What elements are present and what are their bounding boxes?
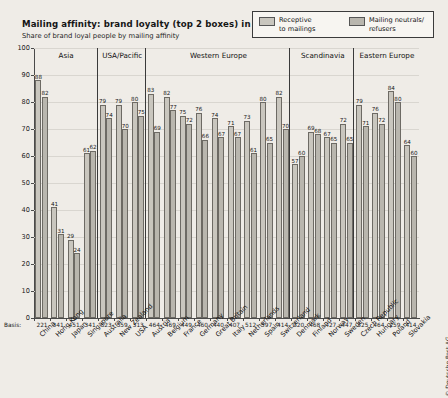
bar[interactable] [308, 132, 314, 318]
bar-group[interactable]: 7672 [372, 48, 385, 318]
bar[interactable] [363, 126, 369, 318]
bar[interactable] [299, 156, 305, 318]
bar[interactable] [100, 105, 106, 318]
x-axis-tick-mark [307, 318, 308, 321]
bar-value-label: 80 [259, 96, 266, 102]
bar-group[interactable]: 8065 [260, 48, 273, 318]
bar[interactable] [90, 151, 96, 318]
bar[interactable] [372, 113, 378, 318]
bar[interactable] [356, 105, 362, 318]
bar-group[interactable]: 8075 [132, 48, 145, 318]
bar-value-label: 64 [404, 139, 411, 145]
bar[interactable] [404, 145, 410, 318]
bar-value-label: 82 [41, 90, 48, 96]
bar-group[interactable]: 7467 [212, 48, 225, 318]
x-axis-tick-mark [243, 318, 244, 321]
bar[interactable] [395, 102, 401, 318]
bar-value-label: 29 [67, 233, 74, 239]
bar[interactable] [202, 140, 208, 318]
bar-group[interactable]: 8480 [388, 48, 401, 318]
bar-value-label: 80 [394, 96, 401, 102]
bar[interactable] [218, 137, 224, 318]
bar-value-label: 72 [378, 117, 385, 123]
bar-value-label: 70 [282, 123, 289, 129]
bar-group[interactable]: 7666 [196, 48, 209, 318]
bar[interactable] [164, 97, 170, 318]
bar-group[interactable]: 8882 [35, 48, 48, 318]
bar-group[interactable]: 7970 [116, 48, 129, 318]
bar-group[interactable]: 6968 [308, 48, 321, 318]
bar[interactable] [180, 116, 186, 319]
bar[interactable] [106, 118, 112, 318]
bar[interactable] [379, 124, 385, 318]
x-axis-tick-mark [387, 318, 388, 321]
bar[interactable] [84, 153, 90, 318]
bar-group[interactable]: 2924 [68, 48, 81, 318]
bar-value-label: 84 [388, 85, 395, 91]
bar[interactable] [324, 137, 330, 318]
legend-item-0: Receptive to mailings [259, 16, 315, 33]
bar-group[interactable]: 7361 [244, 48, 257, 318]
bar[interactable] [292, 164, 298, 318]
bar[interactable] [315, 134, 321, 318]
x-axis-tick-mark [178, 318, 179, 321]
bar[interactable] [132, 102, 138, 318]
x-axis-tick-mark [194, 318, 195, 321]
bar-value-label: 60 [298, 150, 305, 156]
bar-value-label: 75 [179, 109, 186, 115]
bar-group[interactable]: 6765 [324, 48, 337, 318]
bar-group[interactable]: 8277 [164, 48, 177, 318]
bar[interactable] [331, 143, 337, 319]
x-axis-tick-mark [259, 318, 260, 321]
bar[interactable] [388, 91, 394, 318]
bar[interactable] [251, 153, 257, 318]
bar-group[interactable]: 6162 [84, 48, 97, 318]
x-axis-tick-mark [210, 318, 211, 321]
bar-value-label: 62 [90, 144, 97, 150]
bar[interactable] [186, 124, 192, 318]
bar-value-label: 79 [356, 98, 363, 104]
y-axis-tick-label: 40 [14, 206, 30, 214]
bar-value-label: 65 [330, 136, 337, 142]
bar-group[interactable]: 5760 [292, 48, 305, 318]
bar[interactable] [235, 137, 241, 318]
bar[interactable] [283, 129, 289, 318]
bar-group[interactable]: 7572 [180, 48, 193, 318]
bar-group[interactable]: 8270 [276, 48, 289, 318]
bar[interactable] [267, 143, 273, 319]
bar-group[interactable]: 7167 [228, 48, 241, 318]
bar[interactable] [58, 234, 64, 318]
bar[interactable] [411, 156, 417, 318]
bar-value-label: 76 [195, 106, 202, 112]
bar-group[interactable]: 7265 [340, 48, 353, 318]
bar[interactable] [212, 118, 218, 318]
region-label: Eastern Europe [327, 51, 447, 60]
bar[interactable] [35, 80, 41, 318]
bar[interactable] [170, 110, 176, 318]
bar[interactable] [116, 105, 122, 318]
region-label: Western Europe [158, 51, 278, 60]
bar-group[interactable]: 8369 [148, 48, 161, 318]
bar[interactable] [138, 116, 144, 319]
bar[interactable] [42, 97, 48, 318]
bar[interactable] [51, 207, 57, 318]
bar[interactable] [196, 113, 202, 318]
bar[interactable] [340, 124, 346, 318]
x-axis-tick-mark [162, 318, 163, 321]
bar-group[interactable]: 7971 [356, 48, 369, 318]
bar-value-label: 69 [154, 125, 161, 131]
legend-swatch-icon [349, 17, 365, 26]
bar[interactable] [154, 132, 160, 318]
bar[interactable] [276, 97, 282, 318]
bar[interactable] [228, 126, 234, 318]
bar-group[interactable]: 6460 [404, 48, 417, 318]
bar-value-label: 75 [138, 109, 145, 115]
bar[interactable] [347, 143, 353, 319]
bar[interactable] [122, 129, 128, 318]
chart-legend: Receptive to mailingsMailing neutrals/ r… [252, 11, 434, 38]
x-axis-tick-mark [371, 318, 372, 321]
bar-group[interactable]: 7974 [100, 48, 113, 318]
bar[interactable] [260, 102, 266, 318]
region-separator [289, 48, 290, 318]
bar-group[interactable]: 4131 [51, 48, 64, 318]
